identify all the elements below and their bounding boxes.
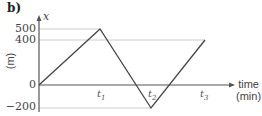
- x-tick-t2-sub: 2: [152, 94, 156, 102]
- x-tick-t1: t1: [97, 88, 106, 102]
- series-line: [39, 29, 205, 108]
- x-tick-t2: t2: [148, 88, 157, 102]
- x-axis-label: time (min): [236, 78, 261, 102]
- y-axis-arrow-icon: [37, 15, 42, 21]
- chart-canvas: [0, 0, 262, 116]
- y-tick-neg200: −200: [2, 100, 36, 113]
- y-axis-variable: x: [43, 10, 49, 23]
- x-tick-t1-sub: 1: [101, 94, 105, 102]
- y-tick-0: 0: [2, 78, 36, 91]
- y-tick-400: 400: [2, 33, 36, 46]
- x-axis-arrow-icon: [229, 83, 235, 88]
- x-axis-title: time: [236, 78, 261, 90]
- x-tick-t3: t3: [200, 88, 209, 102]
- x-tick-t3-sub: 3: [204, 94, 208, 102]
- x-axis-unit: (min): [236, 90, 261, 102]
- y-axis-unit: (m): [4, 53, 16, 70]
